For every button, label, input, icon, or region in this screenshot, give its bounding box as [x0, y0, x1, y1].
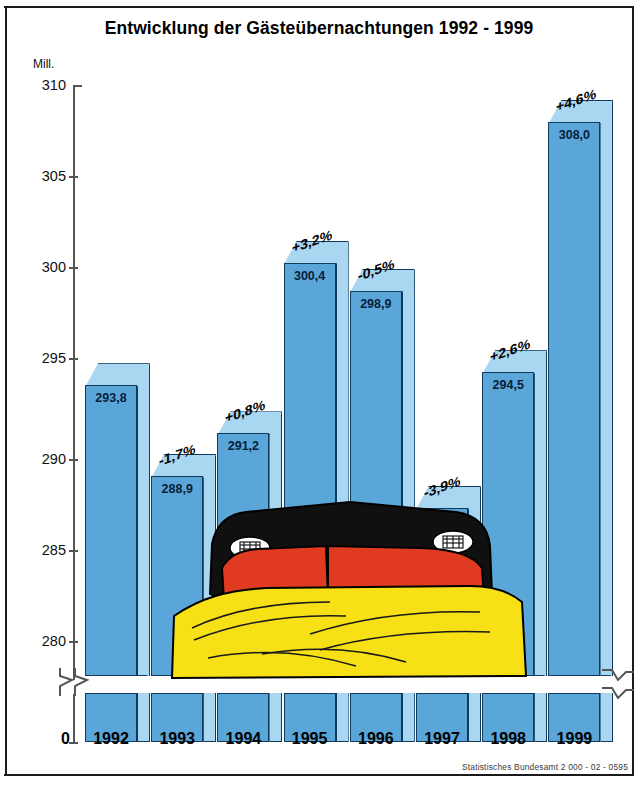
axis-break-symbol [56, 666, 90, 700]
x-axis-label-1997: 1997 [407, 730, 477, 748]
bar-front-face [548, 122, 600, 676]
x-axis-label-1992: 1992 [76, 730, 146, 748]
bed-illustration [170, 498, 530, 690]
chart-page: Entwicklung der Gästeübernachtungen 1992… [0, 0, 638, 787]
x-axis-label-1999: 1999 [539, 730, 609, 748]
bar-value-label-1999: 308,0 [548, 128, 600, 142]
x-axis-label-1998: 1998 [473, 730, 543, 748]
x-axis-label-1994: 1994 [208, 730, 278, 748]
x-axis-label-1993: 1993 [142, 730, 212, 748]
x-axis-label-1995: 1995 [275, 730, 345, 748]
source-note: Statistisches Bundesamt 2 000 - 02 - 059… [462, 762, 628, 772]
baseline-break-symbol [600, 666, 636, 700]
x-axis-label-1996: 1996 [341, 730, 411, 748]
bar-side-face [600, 100, 613, 676]
